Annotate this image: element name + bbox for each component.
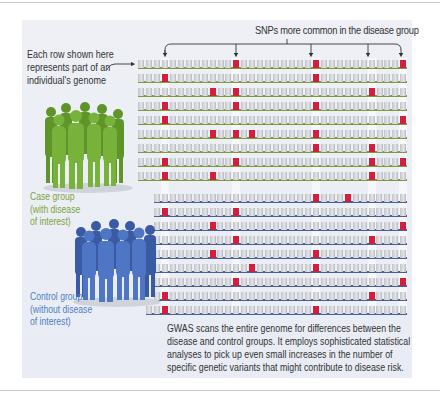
genome-segment bbox=[289, 102, 295, 110]
control-group-label: Control group (without disease of intere… bbox=[30, 290, 92, 328]
genome-segment bbox=[281, 194, 287, 202]
genome-segment bbox=[273, 60, 279, 68]
genome-segment bbox=[233, 292, 239, 300]
genome-segment bbox=[392, 116, 398, 124]
genome-segment bbox=[154, 144, 160, 152]
genome-segment bbox=[170, 102, 176, 110]
case-genome-row bbox=[138, 158, 407, 166]
genome-segment bbox=[345, 306, 351, 314]
genome-segment bbox=[162, 236, 168, 244]
intro-line: represents part of an bbox=[27, 61, 117, 74]
genome-segment bbox=[376, 278, 382, 286]
genome-segment bbox=[361, 144, 367, 152]
genome-segment bbox=[202, 222, 208, 230]
control-genome-row bbox=[154, 194, 407, 202]
genome-segment bbox=[376, 194, 382, 202]
genome-segment bbox=[297, 278, 303, 286]
snp-marker bbox=[233, 236, 239, 244]
snp-marker bbox=[162, 306, 168, 314]
snp-marker bbox=[369, 292, 375, 300]
genome-segment bbox=[225, 292, 231, 300]
genome-segment bbox=[265, 222, 271, 230]
genome-segment bbox=[377, 130, 383, 138]
genome-segment bbox=[321, 222, 327, 230]
genome-segment bbox=[257, 144, 263, 152]
control-genome-row bbox=[154, 236, 407, 244]
genome-segment bbox=[170, 158, 176, 166]
genome-segment bbox=[297, 88, 303, 96]
genome-segment bbox=[289, 144, 295, 152]
snp-marker bbox=[400, 278, 406, 286]
genome-segment bbox=[361, 88, 367, 96]
genome-segment bbox=[289, 60, 295, 68]
genome-segment bbox=[329, 208, 335, 216]
genome-segment bbox=[138, 74, 144, 82]
genome-segment bbox=[361, 116, 367, 124]
genome-segment bbox=[154, 74, 160, 82]
control-label-line: of interest) bbox=[30, 315, 92, 328]
genome-segment bbox=[289, 116, 295, 124]
genome-segment bbox=[249, 102, 255, 110]
snp-marker bbox=[313, 74, 319, 82]
genome-segment bbox=[146, 102, 152, 110]
genome-segment bbox=[241, 306, 247, 314]
genome-segment bbox=[345, 264, 351, 272]
genome-segment bbox=[337, 60, 343, 68]
genome-segment bbox=[400, 74, 406, 82]
genome-segment bbox=[353, 264, 359, 272]
genome-segment bbox=[392, 222, 398, 230]
snp-marker bbox=[313, 306, 319, 314]
genome-segment bbox=[321, 74, 327, 82]
genome-segment bbox=[170, 208, 176, 216]
genome-segment bbox=[265, 236, 271, 244]
genome-segment bbox=[257, 222, 263, 230]
genome-segment bbox=[353, 116, 359, 124]
genome-segment bbox=[241, 158, 247, 166]
genome-segment bbox=[210, 236, 216, 244]
genome-segment bbox=[241, 236, 247, 244]
genome-segment bbox=[170, 222, 176, 230]
genome-segment bbox=[305, 158, 311, 166]
genome-segment bbox=[329, 172, 335, 180]
genome-segment bbox=[329, 102, 335, 110]
genome-segment bbox=[289, 292, 295, 300]
bottom-rule bbox=[0, 390, 440, 391]
control-label-line: Control group bbox=[30, 290, 92, 303]
genome-segment bbox=[281, 278, 287, 286]
genome-segment bbox=[170, 60, 176, 68]
genome-segment bbox=[353, 236, 359, 244]
genome-segment bbox=[361, 236, 367, 244]
genome-segment bbox=[321, 208, 327, 216]
genome-segment bbox=[170, 306, 176, 314]
genome-segment bbox=[241, 264, 247, 272]
control-genome-row bbox=[154, 222, 407, 230]
genome-segment bbox=[337, 102, 343, 110]
genome-segment bbox=[321, 194, 327, 202]
genome-segment bbox=[305, 222, 311, 230]
genome-segment bbox=[329, 158, 335, 166]
genome-segment bbox=[202, 278, 208, 286]
genome-segment bbox=[273, 208, 279, 216]
genome-segment bbox=[384, 116, 390, 124]
snp-marker bbox=[345, 194, 351, 202]
genome-segment bbox=[202, 194, 208, 202]
genome-segment bbox=[170, 116, 176, 124]
case-genome-row bbox=[138, 172, 407, 180]
genome-segment bbox=[170, 130, 176, 138]
genome-segment bbox=[400, 130, 406, 138]
genome-segment bbox=[400, 102, 406, 110]
snp-marker bbox=[210, 222, 216, 230]
genome-segment bbox=[186, 144, 192, 152]
genome-segment bbox=[361, 102, 367, 110]
genome-segment bbox=[217, 222, 223, 230]
genome-segment bbox=[384, 60, 390, 68]
genome-segment bbox=[202, 102, 208, 110]
genome-segment bbox=[321, 88, 327, 96]
genome-segment bbox=[210, 194, 216, 202]
genome-segment bbox=[289, 222, 295, 230]
genome-segment bbox=[257, 194, 263, 202]
genome-segment bbox=[400, 144, 406, 152]
genome-segment bbox=[305, 194, 311, 202]
genome-segment bbox=[369, 208, 375, 216]
genome-segment bbox=[154, 208, 160, 216]
